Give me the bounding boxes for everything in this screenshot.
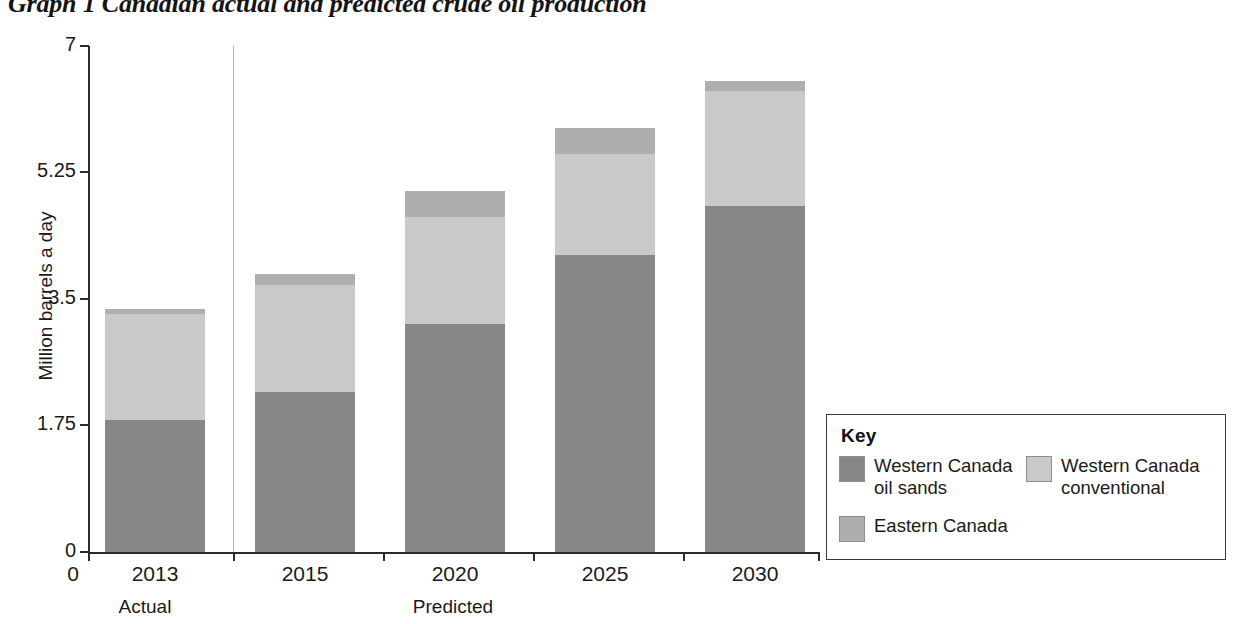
bar-group[interactable] [705, 0, 805, 552]
x-origin-label: 0 [58, 562, 88, 586]
x-tick-mark [683, 552, 685, 561]
legend-row-2: Eastern Canada [839, 515, 1213, 542]
bar-segment[interactable] [255, 274, 355, 285]
x-tick-label: 2025 [545, 562, 665, 586]
y-tick-label: 7 [12, 33, 76, 56]
actual-predicted-divider [233, 46, 234, 552]
x-tick-label: 2015 [245, 562, 365, 586]
legend-label-oilsands: Western Canada oil sands [874, 455, 1026, 499]
legend-item-eastern[interactable]: Eastern Canada [839, 515, 1035, 542]
bar-segment[interactable] [705, 91, 805, 206]
legend-title: Key [841, 425, 1213, 447]
bar-segment[interactable] [405, 191, 505, 216]
bar-segment[interactable] [105, 309, 205, 314]
x-tick-mark [818, 552, 820, 561]
legend-label-conventional: Western Canada conventional [1061, 455, 1213, 499]
legend-key-box: Key Western Canada oil sands Western Can… [826, 414, 1226, 560]
y-tick-label: 3.5 [12, 286, 76, 309]
legend-swatch-oilsands [839, 456, 865, 482]
legend-item-oilsands[interactable]: Western Canada oil sands [839, 455, 1026, 499]
y-tick-mark [80, 171, 89, 173]
y-axis-line [88, 46, 90, 554]
bar-segment[interactable] [405, 324, 505, 552]
x-axis-line [88, 552, 818, 554]
y-tick-mark [80, 45, 89, 47]
bar-group[interactable] [555, 0, 655, 552]
x-tick-mark [233, 552, 235, 561]
y-tick-label: 1.75 [12, 412, 76, 435]
y-tick-mark [80, 424, 89, 426]
legend-label-eastern: Eastern Canada [874, 515, 1008, 537]
x-tick-label: 2020 [395, 562, 515, 586]
y-tick-mark [80, 298, 89, 300]
bar-group[interactable] [255, 0, 355, 552]
legend-row-1: Western Canada oil sands Western Canada … [839, 455, 1213, 499]
x-tick-label: 2030 [695, 562, 815, 586]
y-tick-label: 0 [12, 539, 76, 562]
bar-segment[interactable] [555, 128, 655, 153]
bar-segment[interactable] [255, 285, 355, 391]
y-tick-label: 5.25 [12, 159, 76, 182]
legend-item-conventional[interactable]: Western Canada conventional [1026, 455, 1213, 499]
legend-swatch-conventional [1026, 456, 1052, 482]
bar-group[interactable] [105, 0, 205, 552]
x-tick-mark [533, 552, 535, 561]
bar-segment[interactable] [105, 314, 205, 420]
x-tick-label: 2013 [95, 562, 215, 586]
legend-swatch-eastern [839, 516, 865, 542]
bar-segment[interactable] [555, 154, 655, 255]
bar-group[interactable] [405, 0, 505, 552]
bar-segment[interactable] [255, 392, 355, 552]
bar-segment[interactable] [705, 81, 805, 91]
bar-segment[interactable] [105, 420, 205, 552]
x-tick-mark [383, 552, 385, 561]
bar-segment[interactable] [705, 206, 805, 552]
x-tick-mark [88, 552, 90, 561]
x-sublabel-actual: Actual [45, 596, 245, 618]
bar-segment[interactable] [405, 217, 505, 324]
x-sublabel-predicted: Predicted [353, 596, 553, 618]
bar-segment[interactable] [555, 255, 655, 552]
